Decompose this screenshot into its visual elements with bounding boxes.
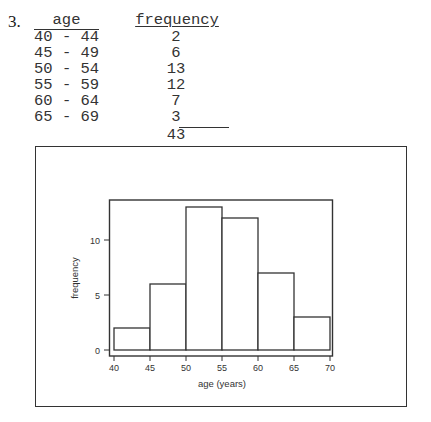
histogram-bar bbox=[114, 328, 150, 350]
y-tick-label: 5 bbox=[95, 291, 100, 301]
x-tick-label: 60 bbox=[253, 363, 263, 373]
x-tick-label: 55 bbox=[217, 363, 227, 373]
histogram-bar bbox=[294, 317, 330, 350]
histogram-bar bbox=[222, 218, 258, 350]
x-tick-label: 45 bbox=[145, 363, 155, 373]
y-axis-label: frequency bbox=[69, 257, 80, 299]
y-tick-label: 10 bbox=[90, 236, 100, 246]
histogram-chart: 051040455055606570age (years)frequency bbox=[0, 0, 431, 422]
histogram-bar bbox=[186, 207, 222, 350]
histogram-bar bbox=[258, 273, 294, 350]
x-tick-label: 40 bbox=[109, 363, 119, 373]
x-tick-label: 50 bbox=[181, 363, 191, 373]
x-tick-label: 65 bbox=[289, 363, 299, 373]
y-tick-label: 0 bbox=[95, 346, 100, 356]
x-axis-label: age (years) bbox=[198, 378, 246, 389]
histogram-bar bbox=[150, 284, 186, 350]
x-tick-label: 70 bbox=[325, 363, 335, 373]
